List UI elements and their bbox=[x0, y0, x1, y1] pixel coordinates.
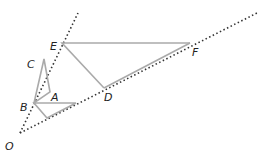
label-e: E bbox=[50, 40, 57, 53]
label-o: O bbox=[5, 140, 14, 152]
geometry-diagram: O B A C E D F bbox=[0, 0, 259, 152]
triangle-b-lower bbox=[34, 103, 76, 118]
label-a: A bbox=[50, 91, 59, 104]
ray-o-f bbox=[20, 13, 257, 133]
triangle-edf bbox=[62, 43, 190, 88]
label-c: C bbox=[27, 58, 35, 71]
label-b: B bbox=[20, 101, 28, 114]
label-d: D bbox=[104, 91, 112, 104]
label-f: F bbox=[192, 46, 199, 59]
segment-df bbox=[104, 43, 190, 88]
triangle-bca bbox=[34, 59, 50, 103]
ray-o-e bbox=[20, 13, 78, 133]
